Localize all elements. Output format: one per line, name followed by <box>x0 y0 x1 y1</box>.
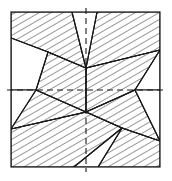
figure-container: Hatched polygon dissection of a square A… <box>0 0 172 181</box>
dissection-figure <box>0 0 172 181</box>
